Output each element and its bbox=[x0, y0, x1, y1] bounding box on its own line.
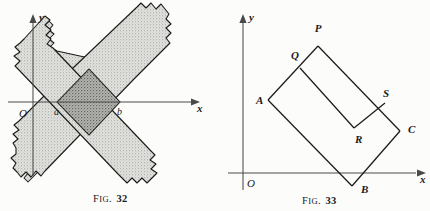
fig33-caption-number: 33 bbox=[325, 195, 336, 206]
fig32-label-a: a bbox=[54, 106, 59, 117]
fig33-x-axis-label: x bbox=[419, 173, 426, 185]
fig33-label-Q: Q bbox=[291, 49, 299, 61]
fig33-y-axis-label: y bbox=[247, 11, 254, 23]
fig32-origin-label: O bbox=[19, 107, 27, 119]
fig33-label-B: B bbox=[360, 183, 368, 195]
fig32-caption-number: 32 bbox=[116, 193, 127, 204]
fig33-label-P: P bbox=[315, 22, 322, 34]
fig33-label-S: S bbox=[383, 87, 389, 99]
fig32-label-b: b bbox=[117, 106, 122, 117]
fig32-y-axis-arrow bbox=[29, 14, 36, 23]
fig33-caption-IG: IG bbox=[308, 196, 318, 206]
fig33-label-R: R bbox=[354, 133, 362, 145]
fig33-inner-notch bbox=[300, 68, 385, 128]
fig32-y-axis-label: y bbox=[37, 11, 44, 23]
edge-Q-R bbox=[300, 68, 354, 128]
fig33-y-axis-arrow bbox=[239, 14, 246, 23]
fig33-label-A: A bbox=[255, 94, 263, 106]
fig33-caption: FIG. 33 bbox=[302, 190, 337, 208]
fig33-caption-dot: . bbox=[318, 195, 321, 206]
figure-32-drawing: y x O a b bbox=[0, 0, 215, 185]
fig33-label-C: C bbox=[408, 123, 416, 135]
fig33-origin-label: O bbox=[247, 177, 255, 189]
fig32-x-axis-label: x bbox=[196, 102, 203, 114]
figure-33-drawing: P Q A S R C B y x O bbox=[215, 0, 430, 200]
figure-page: y x O a b FIG. 32 P bbox=[0, 0, 430, 211]
fig32-caption: FIG. 32 bbox=[93, 188, 128, 206]
edge-R-S bbox=[354, 103, 385, 128]
fig33-outer-square bbox=[268, 46, 400, 186]
fig32-caption-dot: . bbox=[109, 193, 112, 204]
fig32-caption-IG: IG bbox=[99, 194, 109, 204]
